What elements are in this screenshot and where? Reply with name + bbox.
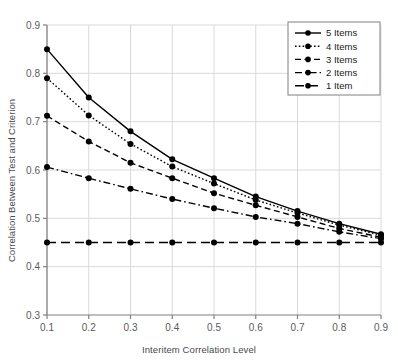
data-point: [336, 229, 342, 235]
y-tick-label: 0.8: [26, 68, 40, 79]
data-point: [169, 196, 175, 202]
legend-label-5: 1 Item: [326, 80, 352, 91]
data-point: [169, 175, 175, 181]
data-point: [169, 240, 175, 246]
line-chart: 0.30.40.50.60.70.80.90.10.20.30.40.50.60…: [0, 0, 398, 361]
data-point: [211, 205, 217, 211]
x-axis-title: Interitem Correlation Level: [0, 344, 398, 355]
legend-marker-3: [305, 57, 311, 63]
legend-label-3: 3 Items: [326, 54, 357, 65]
data-point: [336, 240, 342, 246]
legend: 5 Items4 Items3 Items2 Items1 Item: [288, 22, 380, 95]
data-point: [86, 95, 92, 101]
legend-marker-1: [305, 30, 311, 36]
data-point: [44, 164, 50, 170]
y-tick-label: 0.4: [26, 261, 40, 272]
data-point: [211, 190, 217, 196]
y-tick-label: 0.6: [26, 165, 40, 176]
y-tick-label: 0.9: [26, 20, 40, 31]
y-tick-label: 0.3: [26, 310, 40, 321]
data-point: [169, 164, 175, 170]
x-tick-label: 0.3: [124, 322, 138, 333]
data-point: [44, 240, 50, 246]
data-point: [86, 112, 92, 118]
x-tick-label: 0.8: [332, 322, 346, 333]
data-point: [211, 181, 217, 187]
y-axis-title: Correlation Between Test and Criterion: [6, 99, 17, 262]
data-point: [253, 202, 259, 208]
data-point: [211, 240, 217, 246]
data-point: [86, 138, 92, 144]
legend-label-1: 5 Items: [326, 27, 357, 38]
data-point: [169, 156, 175, 162]
legend-marker-2: [305, 43, 311, 49]
y-axis-title-wrap: Correlation Between Test and Criterion: [0, 0, 22, 361]
x-tick-label: 0.7: [291, 322, 305, 333]
data-point: [253, 240, 259, 246]
data-point: [86, 175, 92, 181]
data-point: [295, 240, 301, 246]
x-tick-label: 0.1: [40, 322, 54, 333]
data-point: [295, 221, 301, 227]
legend-marker-4: [305, 70, 311, 76]
data-point: [378, 240, 384, 246]
x-tick-label: 0.5: [207, 322, 221, 333]
x-tick-label: 0.2: [82, 322, 96, 333]
x-tick-label: 0.9: [374, 322, 388, 333]
data-point: [253, 214, 259, 220]
data-point: [253, 197, 259, 203]
chart-container: 0.30.40.50.60.70.80.90.10.20.30.40.50.60…: [0, 0, 398, 361]
data-point: [44, 113, 50, 119]
data-point: [211, 175, 217, 181]
data-point: [44, 46, 50, 52]
legend-label-2: 4 Items: [326, 41, 357, 52]
data-point: [128, 240, 134, 246]
y-tick-label: 0.5: [26, 213, 40, 224]
y-tick-label: 0.7: [26, 116, 40, 127]
data-point: [86, 240, 92, 246]
legend-marker-5: [305, 83, 311, 89]
data-point: [128, 186, 134, 192]
legend-label-4: 2 Items: [326, 67, 357, 78]
data-point: [295, 214, 301, 220]
data-point: [44, 75, 50, 81]
x-tick-label: 0.4: [165, 322, 179, 333]
data-point: [128, 128, 134, 134]
data-point: [128, 141, 134, 147]
data-point: [128, 160, 134, 166]
x-tick-label: 0.6: [249, 322, 263, 333]
